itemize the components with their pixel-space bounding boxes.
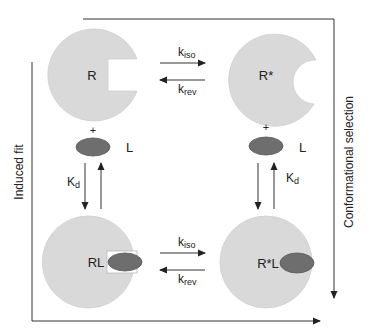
bound-ligand-RL <box>108 253 142 271</box>
complex-RL-label: RL <box>88 255 105 270</box>
complex-R-star-L-label: R*L <box>257 256 279 271</box>
ligand-L-label-left: L <box>126 140 133 155</box>
top-isomerization-arrows: kiso krev <box>160 45 205 97</box>
ligand-ellipse-right <box>249 137 283 155</box>
plus-sign-right: + <box>263 121 269 133</box>
complex-RL: RL <box>42 216 142 308</box>
receptor-R: R <box>48 29 137 121</box>
krev-label-top: krev <box>178 82 197 97</box>
plus-sign-left: + <box>90 124 96 136</box>
kd-label-left: Kd <box>67 175 80 190</box>
ligand-L-label-right: L <box>299 140 306 155</box>
complex-R-star-L: R*L <box>220 216 314 308</box>
induced-fit-label: Induced fit <box>12 144 26 200</box>
receptor-R-star-label: R* <box>259 68 273 83</box>
kd-label-right: Kd <box>286 171 299 186</box>
ligand-ellipse-left <box>76 138 110 156</box>
ligand-left: + L <box>76 124 133 156</box>
kiso-label-top: kiso <box>178 45 196 60</box>
kiso-label-bottom: kiso <box>178 235 196 250</box>
krev-label-bottom: krev <box>178 272 197 287</box>
right-binding-arrows: Kd <box>258 163 299 209</box>
conformational-selection-label: Conformational selection <box>342 96 356 228</box>
bound-ligand-R-star-L <box>280 253 314 273</box>
binding-mechanism-diagram: Induced fit Conformational selection R R… <box>0 0 369 336</box>
receptor-R-label: R <box>87 68 96 83</box>
bottom-isomerization-arrows: kiso krev <box>160 235 205 287</box>
receptor-R-star: R* <box>229 34 316 126</box>
left-binding-arrows: Kd <box>67 163 101 209</box>
